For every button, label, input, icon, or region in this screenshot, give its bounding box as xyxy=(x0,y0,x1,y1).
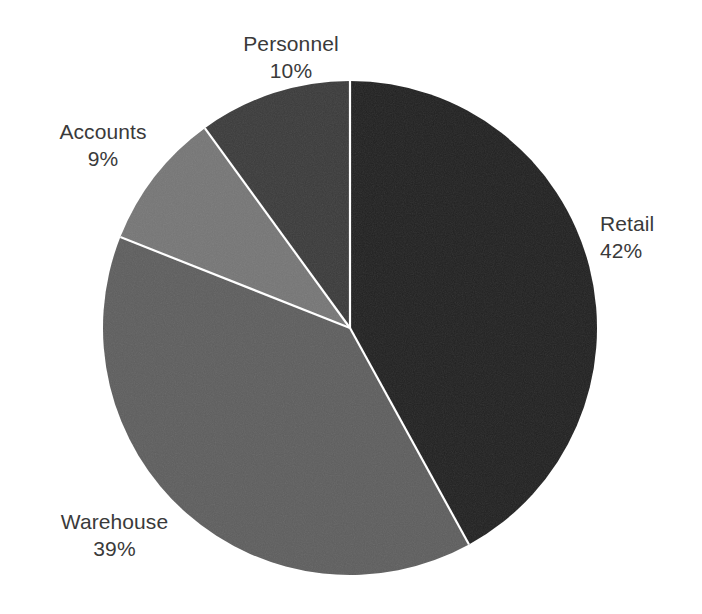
slice-label-warehouse-name: Warehouse xyxy=(22,508,207,535)
slice-label-personnel-value: 10% xyxy=(201,57,381,84)
slice-label-retail-value: 42% xyxy=(600,237,690,264)
slice-label-accounts-name: Accounts xyxy=(18,118,188,145)
slice-label-warehouse-value: 39% xyxy=(22,535,207,562)
slice-label-accounts-value: 9% xyxy=(18,145,188,172)
slice-label-retail: Retail 42% xyxy=(600,210,690,265)
slice-label-warehouse: Warehouse 39% xyxy=(22,508,207,563)
pie-chart: Personnel 10% Accounts 9% Retail 42% War… xyxy=(0,0,702,614)
slice-label-accounts: Accounts 9% xyxy=(18,118,188,173)
slice-label-personnel-name: Personnel xyxy=(201,30,381,57)
slice-label-retail-name: Retail xyxy=(600,210,690,237)
slice-label-personnel: Personnel 10% xyxy=(201,30,381,85)
